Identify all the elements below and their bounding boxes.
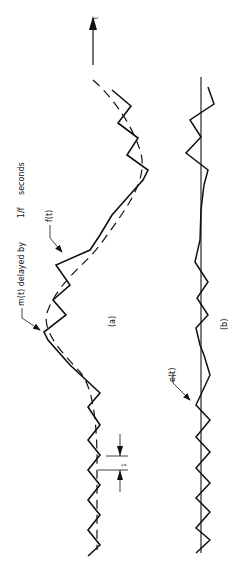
label-e: e(t)	[168, 368, 177, 382]
label-m: m(t) delayed by	[17, 242, 26, 306]
caption-b: (b)	[220, 319, 229, 330]
delta-modulation-figure: t m(t) delayed by 1/f seconds f(t) (a)	[0, 0, 244, 580]
panel-a: m(t) delayed by 1/f seconds f(t) (a) 1	[17, 80, 148, 556]
label-m-group: m(t) delayed by 1/f seconds	[17, 162, 40, 330]
label-f-group: f(t)	[45, 210, 62, 252]
label-m-unit: seconds	[17, 162, 26, 195]
signal-f-curve	[46, 80, 142, 550]
staircase-m-waveform	[44, 90, 148, 556]
interval-label: 1	[120, 463, 127, 467]
label-m-fraction: 1/f	[17, 207, 26, 218]
caption-a: (a)	[108, 316, 117, 327]
label-e-group: e(t)	[168, 368, 190, 400]
label-f: f(t)	[45, 210, 54, 222]
time-axis-arrow: t	[89, 16, 99, 65]
error-e-waveform	[186, 87, 214, 553]
interval-dimension: 1	[98, 434, 128, 492]
panel-b: e(t) (b)	[168, 77, 229, 553]
